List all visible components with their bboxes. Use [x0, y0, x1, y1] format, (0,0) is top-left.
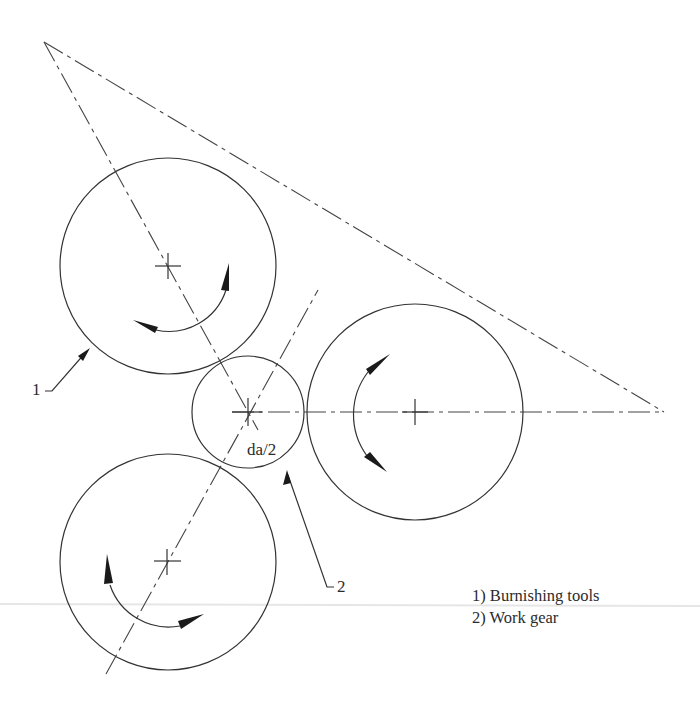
rotation-arrow-head-icon: [366, 354, 390, 375]
rotation-arrow-head-icon: [104, 554, 113, 584]
callout-1-label: 1: [32, 380, 41, 400]
rotation-arrow-head-icon: [364, 452, 387, 472]
rotation-arrow-head-icon: [178, 614, 204, 629]
rotation-arc: [353, 372, 368, 456]
rotation-arrow-head-icon: [221, 263, 229, 291]
leader-arrow-head-icon: [283, 470, 291, 485]
dimension-label-da2: da/2: [247, 440, 276, 460]
callout-2-leader: [283, 470, 334, 587]
callout-1-leader: [45, 348, 90, 391]
rotation-arrow-head-icon: [133, 320, 158, 333]
burnishing-tool-top-left: [60, 158, 276, 374]
legend-item-work-gear: 2) Work gear: [472, 607, 599, 629]
triangle-top-edge: [44, 42, 664, 412]
callout-2-label: 2: [337, 577, 346, 597]
construction-triangle: [44, 42, 664, 430]
legend: 1) Burnishing tools 2) Work gear: [472, 585, 599, 629]
legend-item-burnishing-tools: 1) Burnishing tools: [472, 585, 599, 607]
rotation-arc: [110, 585, 180, 627]
rotation-arc: [156, 290, 226, 331]
center-line-top-tool: [44, 42, 258, 430]
